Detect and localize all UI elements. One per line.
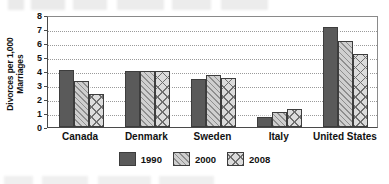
- bar-italy-2000[interactable]: [272, 112, 287, 127]
- legend-swatch-2000: [173, 152, 190, 166]
- y-axis-tick-mark: [44, 100, 47, 101]
- y-axis-tick-mark: [44, 86, 47, 87]
- bar-united-states-1990[interactable]: [323, 27, 338, 127]
- bar-sweden-1990[interactable]: [191, 79, 206, 127]
- bar-sweden-2008[interactable]: [221, 78, 236, 127]
- legend-label-2000: 2000: [195, 154, 216, 165]
- y-axis-tick-label: 2: [20, 96, 42, 105]
- legend-label-1990: 1990: [141, 154, 162, 165]
- bar-italy-1990[interactable]: [257, 117, 272, 127]
- y-axis-tick-mark: [44, 44, 47, 45]
- y-axis-tick-label: 7: [20, 26, 42, 35]
- y-axis-title-line1: Divorces per 1,000: [5, 37, 15, 110]
- chart-legend: 199020002008: [0, 152, 389, 166]
- bar-united-states-2000[interactable]: [338, 41, 353, 127]
- y-axis-tick-label: 4: [20, 68, 42, 77]
- bar-group-denmark: [125, 17, 170, 127]
- y-axis-tick-mark: [44, 16, 47, 17]
- legend-item-2008[interactable]: 2008: [227, 152, 270, 166]
- y-axis-tick-label: 0: [20, 124, 42, 133]
- x-axis-label-denmark: Denmark: [125, 131, 168, 142]
- y-axis-tick-label: 6: [20, 40, 42, 49]
- legend-swatch-1990: [119, 152, 136, 166]
- bar-denmark-2000[interactable]: [140, 71, 155, 127]
- bar-canada-2008[interactable]: [89, 94, 104, 127]
- y-axis-tick-label: 8: [20, 12, 42, 21]
- legend-swatch-2008: [227, 152, 244, 166]
- x-axis-label-sweden: Sweden: [194, 131, 232, 142]
- bar-group-italy: [257, 17, 302, 127]
- bar-group-united-states: [323, 17, 368, 127]
- bar-denmark-1990[interactable]: [125, 71, 140, 127]
- bar-canada-2000[interactable]: [74, 81, 89, 127]
- x-axis-label-italy: Italy: [269, 131, 289, 142]
- bar-series-container: [48, 17, 377, 127]
- bar-group-sweden: [191, 17, 236, 127]
- y-axis-tick-mark: [44, 30, 47, 31]
- y-axis-tick-label: 3: [20, 82, 42, 91]
- y-axis-tick-mark: [44, 114, 47, 115]
- legend-item-2000[interactable]: 2000: [173, 152, 216, 166]
- bar-canada-1990[interactable]: [59, 70, 74, 127]
- y-axis-tick-mark: [44, 72, 47, 73]
- legend-label-2008: 2008: [249, 154, 270, 165]
- y-axis-tick-mark: [44, 128, 47, 129]
- x-axis-label-canada: Canada: [62, 131, 98, 142]
- x-axis-label-united-states: United States: [313, 131, 377, 142]
- bar-united-states-2008[interactable]: [353, 54, 368, 128]
- bar-chart: Divorces per 1,000 Marriages 876543210 C…: [0, 0, 389, 184]
- bar-italy-2008[interactable]: [287, 109, 302, 127]
- plot-area: [47, 16, 378, 128]
- bar-group-canada: [59, 17, 104, 127]
- y-axis-tick-label: 1: [20, 110, 42, 119]
- y-axis-tick-label: 5: [20, 54, 42, 63]
- y-axis-tick-mark: [44, 58, 47, 59]
- legend-item-1990[interactable]: 1990: [119, 152, 162, 166]
- bar-denmark-2008[interactable]: [155, 71, 170, 127]
- bar-sweden-2000[interactable]: [206, 75, 221, 128]
